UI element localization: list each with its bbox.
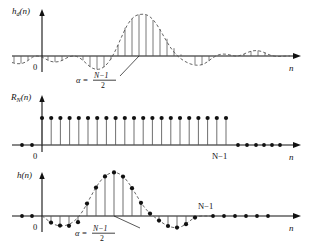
panel-h: h(n) n 0 N−1 α = N−1 2 bbox=[12, 170, 301, 243]
hd-x-axis-label: n bbox=[289, 63, 294, 73]
panel-RN: RN(n) n 0 N−1 bbox=[10, 92, 301, 162]
hd-alpha-pointer bbox=[120, 56, 139, 76]
h-y-axis-label: h(n) bbox=[17, 170, 32, 180]
svg-text:α =: α = bbox=[75, 228, 87, 238]
hd-envelope-curve bbox=[12, 14, 290, 69]
hd-stems-right bbox=[195, 51, 272, 66]
h-stems-left-lobe bbox=[49, 216, 80, 228]
svg-text:N−1: N−1 bbox=[93, 71, 108, 80]
hd-alpha-label: α = N−1 2 bbox=[76, 71, 116, 90]
h-end-label: N−1 bbox=[198, 201, 213, 211]
rn-x-axis-label: n bbox=[289, 152, 294, 162]
panel-hd: hd(n) n 0 α = N−1 2 bbox=[12, 6, 301, 90]
hd-x-arrow bbox=[293, 53, 301, 59]
svg-text:N−1: N−1 bbox=[92, 224, 107, 233]
hd-y-arrow bbox=[39, 9, 44, 16]
figure-svg: hd(n) n 0 α = N−1 2 bbox=[0, 0, 314, 252]
rn-y-arrow bbox=[39, 95, 44, 102]
hd-stems-left bbox=[14, 56, 104, 69]
h-alpha-pointer bbox=[114, 216, 140, 228]
h-envelope-curve bbox=[42, 172, 214, 227]
hd-y-axis-label: hd(n) bbox=[12, 6, 30, 17]
h-y-arrow bbox=[39, 172, 44, 179]
h-origin-label: 0 bbox=[33, 222, 37, 232]
rn-x-arrow bbox=[293, 142, 301, 148]
h-stems-main-lobe bbox=[85, 170, 152, 216]
svg-text:2: 2 bbox=[101, 81, 105, 90]
hd-origin-label: 0 bbox=[33, 62, 37, 72]
rn-y-axis-label: RN(n) bbox=[10, 92, 31, 103]
rn-origin-label: 0 bbox=[33, 151, 37, 161]
svg-text:2: 2 bbox=[100, 234, 104, 243]
rn-window-stems bbox=[40, 116, 228, 145]
h-x-arrow bbox=[293, 213, 301, 219]
h-alpha-label: α = N−1 2 bbox=[75, 224, 115, 243]
svg-text:α =: α = bbox=[76, 75, 88, 85]
h-x-axis-label: n bbox=[289, 223, 294, 233]
signal-processing-figure: hd(n) n 0 α = N−1 2 bbox=[0, 0, 314, 252]
rn-end-label: N−1 bbox=[212, 151, 227, 161]
